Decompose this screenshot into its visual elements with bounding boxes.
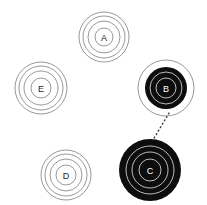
node-c-label: C [147,166,154,176]
node-d[interactable]: D [41,150,91,200]
node-c[interactable]: C [119,139,181,201]
edge-group [153,113,169,140]
node-e-label: E [38,84,44,94]
concentric-circles-diagram: A E B D [0,0,207,205]
node-e[interactable]: E [15,62,67,114]
node-a[interactable]: A [79,12,129,62]
node-b-label: B [163,84,169,94]
node-a-label: A [101,33,107,43]
edge-b-c[interactable] [153,113,169,140]
node-d-label: D [63,171,70,181]
node-b[interactable]: B [138,60,194,116]
diagram-canvas: A E B D [0,0,207,205]
